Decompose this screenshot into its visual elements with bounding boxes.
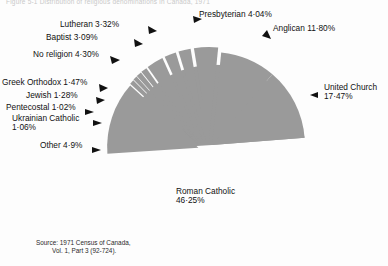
- label-anglican: Anglican 11·80%: [273, 24, 335, 34]
- label-greek-orthodox: Greek Orthodox 1·47%: [2, 78, 87, 88]
- leader-arrow-baptist: [134, 39, 143, 47]
- label-other: Other 4·9%: [40, 141, 82, 151]
- label-presbyterian: Presbyterian 4·04%: [199, 10, 272, 20]
- label-ukrainian-catholic-value: 1·06%: [12, 123, 36, 133]
- label-no-religion: No religion 4·30%: [33, 50, 99, 60]
- label-baptist: Baptist 3·09%: [46, 33, 98, 43]
- source-line-2: Vol. 1, Part 3 (92-724).: [52, 247, 131, 255]
- label-jewish: Jewish 1·28%: [26, 91, 78, 101]
- figure-root: Figure 5-1 Distribution of religious den…: [0, 0, 388, 266]
- label-united-church-value: 17·47%: [324, 92, 353, 102]
- leader-arrow-united-church: [310, 92, 318, 98]
- leader-arrow-no-religion: [110, 56, 120, 64]
- leader-arrow-anglican: [262, 30, 271, 39]
- label-pentecostal: Pentecostal 1·02%: [6, 103, 76, 113]
- source-line-1: 1971 Census of Canada,: [60, 239, 131, 246]
- leader-arrow-ukrainian-catholic: [93, 120, 102, 126]
- leader-arrow-jewish: [96, 97, 105, 104]
- source-note: Source: 1971 Census of Canada, Vol. 1, P…: [36, 239, 131, 254]
- leader-arrow-greek-orthodox: [99, 84, 108, 92]
- leader-arrow-lutheran: [148, 26, 157, 34]
- label-roman-catholic-value: 46·25%: [176, 196, 205, 206]
- leader-arrow-pentecostal: [85, 109, 94, 115]
- leader-arrow-other: [92, 147, 101, 153]
- label-lutheran: Lutheran 3·32%: [60, 20, 119, 30]
- source-label: Source:: [36, 239, 58, 246]
